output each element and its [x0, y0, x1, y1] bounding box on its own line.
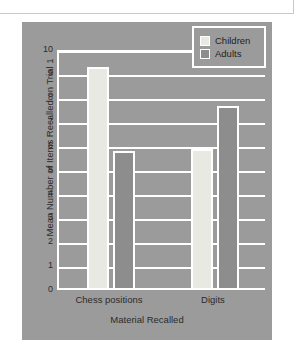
legend-swatch-children-icon: [200, 36, 210, 46]
bar-children-digits: [191, 149, 213, 288]
plot-area: [57, 50, 265, 290]
legend-label-children: Children: [215, 35, 250, 46]
legend-label-adults: Adults: [215, 48, 241, 59]
legend-item-adults: Adults: [200, 48, 258, 59]
y-axis-title: Mean Number of Items Recalled on Trial 1: [44, 43, 55, 253]
bars-layer: [59, 52, 265, 288]
x-axis-title: Material Recalled: [22, 314, 272, 325]
x-category-label: Chess positions: [49, 294, 169, 305]
legend-item-children: Children: [200, 35, 258, 46]
bar-adults-digits: [217, 106, 239, 288]
y-tick-label: 1: [31, 261, 53, 270]
legend: Children Adults: [192, 26, 266, 68]
bar-adults-chess-positions: [113, 151, 135, 288]
x-category-label: Digits: [153, 294, 273, 305]
chart-panel: 012345678910 Mean Number of Items Recall…: [22, 22, 272, 340]
y-tick-label: 0: [31, 285, 53, 294]
top-border-strip: [0, 0, 294, 14]
bar-children-chess-positions: [87, 67, 109, 288]
legend-swatch-adults-icon: [200, 49, 210, 59]
